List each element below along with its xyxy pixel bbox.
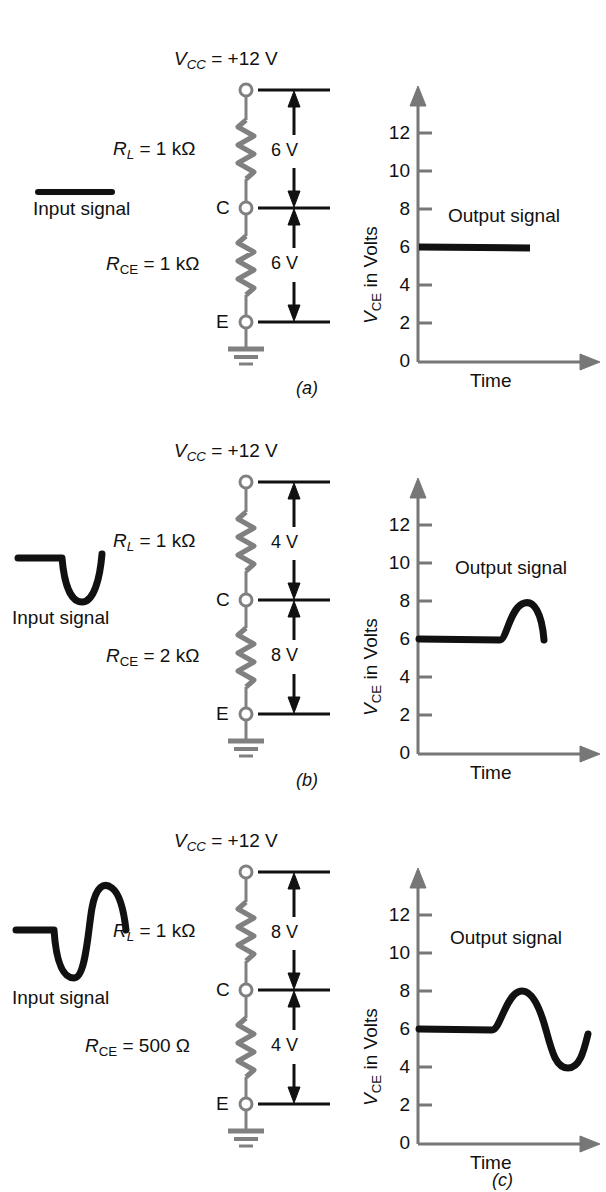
terminal-c [240, 594, 252, 606]
rl-value-c: = 1 kΩ [139, 920, 195, 941]
rl-subscript-b: L [127, 539, 134, 554]
output-signal-label-c: Output signal [450, 927, 562, 949]
y-axis-rest-c: in Volts [360, 1008, 381, 1075]
rl-symbol-c: R [113, 920, 127, 941]
input-signal-label-c: Input signal [12, 987, 109, 1009]
panel-letter-c: (c) [492, 1170, 513, 1191]
node-label-e-b: E [216, 703, 229, 725]
ytick-label-4-c: 4 [384, 1056, 410, 1078]
y-axis-title-a: VCE in Volts [360, 226, 384, 324]
rce-subscript-b: CE [120, 654, 138, 669]
terminal-vcc [240, 84, 252, 96]
rce-symbol-b: R [106, 645, 120, 666]
figure-panel-c: VCC = +12 V RL = 1 kΩ RCE = 500 Ω C E 8 … [0, 782, 606, 1179]
terminal-c [240, 202, 252, 214]
node-label-c-b: C [216, 589, 230, 611]
figure-panel-b: VCC = +12 V RL = 1 kΩ RCE = 2 kΩ C E 4 V… [0, 392, 606, 789]
rl-symbol-b: R [113, 530, 127, 551]
supply-subscript-a: CC [187, 57, 206, 72]
output-signal-waveform-a [419, 247, 530, 248]
voltage-drop-top-a: 6 V [271, 140, 298, 161]
y-axis-symbol-b: V [360, 703, 381, 716]
ytick-label-6-a: 6 [384, 236, 410, 258]
output-signal-waveform-b [419, 603, 544, 640]
output-signal-waveform-c [419, 991, 588, 1068]
ytick-label-10-c: 10 [384, 942, 410, 964]
y-axis-subscript-c: CE [369, 1075, 384, 1093]
input-signal-label-a: Input signal [33, 198, 130, 220]
input-signal-waveform-c [16, 885, 126, 978]
terminal-vcc [240, 866, 252, 878]
input-signal-label-b: Input signal [12, 607, 109, 629]
rce-subscript-a: CE [120, 262, 138, 277]
supply-voltage-label-b: VCC = +12 V [174, 440, 278, 464]
ytick-label-4-b: 4 [384, 666, 410, 688]
ytick-label-8-a: 8 [384, 198, 410, 220]
rl-symbol-a: R [113, 138, 127, 159]
ytick-label-0-b: 0 [384, 742, 410, 764]
rl-label-a: RL = 1 kΩ [113, 138, 195, 162]
rl-label-b: RL = 1 kΩ [113, 530, 195, 554]
y-axis-subscript-a: CE [369, 293, 384, 311]
voltage-markers-a [258, 90, 330, 322]
y-axis-rest-b: in Volts [360, 618, 381, 685]
x-axis-title-b: Time [470, 762, 512, 784]
supply-subscript-c: CC [187, 839, 206, 854]
voltage-drop-bottom-b: 8 V [271, 645, 298, 666]
ytick-label-12-c: 12 [384, 904, 410, 926]
supply-subscript-b: CC [187, 449, 206, 464]
rce-symbol-c: R [85, 1035, 99, 1056]
supply-value-c: = +12 V [211, 830, 278, 851]
supply-value-a: = +12 V [211, 48, 278, 69]
chart-axes-b [410, 478, 600, 762]
voltage-drop-top-c: 8 V [271, 922, 298, 943]
voltage-markers-c [258, 872, 330, 1104]
ytick-label-10-a: 10 [384, 160, 410, 182]
rl-subscript-a: L [127, 147, 134, 162]
rl-subscript-c: L [127, 929, 134, 944]
node-label-c-a: C [216, 197, 230, 219]
rce-label-c: RCE = 500 Ω [85, 1035, 190, 1059]
y-axis-subscript-b: CE [369, 685, 384, 703]
supply-voltage-label-c: VCC = +12 V [174, 830, 278, 854]
supply-voltage-label-a: VCC = +12 V [174, 48, 278, 72]
voltage-drop-bottom-a: 6 V [271, 253, 298, 274]
rce-value-a: = 1 kΩ [144, 253, 200, 274]
figure-panel-a: VCC = +12 V RL = 1 kΩ RCE = 1 kΩ C E 6 V… [0, 0, 606, 397]
rce-label-a: RCE = 1 kΩ [106, 253, 199, 277]
supply-value-b: = +12 V [211, 440, 278, 461]
ytick-label-10-b: 10 [384, 552, 410, 574]
supply-symbol-a: V [174, 48, 187, 69]
rce-label-b: RCE = 2 kΩ [106, 645, 199, 669]
ytick-label-12-b: 12 [384, 514, 410, 536]
rce-value-b: = 2 kΩ [144, 645, 200, 666]
ytick-label-4-a: 4 [384, 274, 410, 296]
y-axis-rest-a: in Volts [360, 226, 381, 293]
supply-symbol-c: V [174, 830, 187, 851]
rl-value-b: = 1 kΩ [139, 530, 195, 551]
rl-label-c: RL = 1 kΩ [113, 920, 195, 944]
ytick-label-0-c: 0 [384, 1132, 410, 1154]
chart-axes-a [410, 86, 600, 370]
node-label-e-a: E [216, 311, 229, 333]
input-signal-waveform-b [18, 554, 102, 602]
ytick-label-6-b: 6 [384, 628, 410, 650]
node-label-c-c: C [216, 979, 230, 1001]
voltage-markers-b [258, 482, 330, 714]
rce-value-c: = 500 Ω [123, 1035, 191, 1056]
y-axis-symbol-c: V [360, 1093, 381, 1106]
rce-subscript-c: CE [99, 1044, 117, 1059]
ytick-label-12-a: 12 [384, 122, 410, 144]
y-axis-title-c: VCE in Volts [360, 1008, 384, 1106]
ytick-label-2-a: 2 [384, 312, 410, 334]
terminal-c [240, 984, 252, 996]
x-axis-title-a: Time [470, 370, 512, 392]
ytick-label-8-b: 8 [384, 590, 410, 612]
output-signal-label-b: Output signal [455, 557, 567, 579]
ytick-label-8-c: 8 [384, 980, 410, 1002]
y-axis-title-b: VCE in Volts [360, 618, 384, 716]
terminal-e [240, 1098, 252, 1110]
supply-symbol-b: V [174, 440, 187, 461]
panel-b-graphics [0, 392, 606, 789]
output-signal-label-a: Output signal [448, 205, 560, 227]
